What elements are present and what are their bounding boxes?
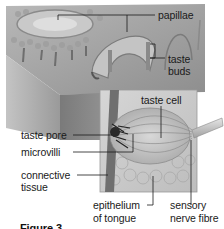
label-connective-1: connective: [21, 169, 70, 181]
label-epithelium-2: of tongue: [93, 212, 136, 224]
label-taste-cell: taste cell: [141, 94, 181, 106]
taste-bud-mark: [108, 50, 112, 72]
label-sensory-2: nerve fibre: [170, 212, 219, 224]
taste-bud-diagram: papillae taste buds taste cell taste por…: [0, 0, 224, 229]
label-epithelium-1: epithelium: [93, 199, 140, 211]
diagram-illustration: [0, 0, 224, 229]
label-microvilli: microvilli: [21, 146, 60, 158]
figure-caption: Figure 3: [20, 222, 62, 229]
label-taste-buds-1: taste: [168, 53, 190, 65]
taste-bud-mark: [146, 42, 150, 70]
label-sensory-1: sensory: [170, 199, 206, 211]
label-connective-2: tissue: [21, 181, 48, 193]
label-papillae: papillae: [158, 9, 193, 21]
label-taste-pore: taste pore: [21, 129, 67, 141]
label-taste-buds-2: buds: [168, 65, 190, 77]
